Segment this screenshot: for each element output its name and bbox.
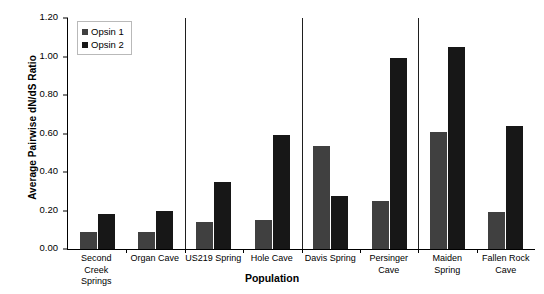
bar-group [243,18,301,249]
bar [506,126,523,249]
legend-item-opsin-1: Opsin 1 [82,25,124,38]
bar [255,220,272,249]
bar-group [360,18,418,249]
bar [331,196,348,249]
bar-group [185,18,243,249]
y-axis-tick-label: 1.20 [40,11,59,22]
bar [273,135,290,249]
bar [488,212,505,249]
bar [390,58,407,249]
bar [196,222,213,249]
bar [80,232,97,249]
bar [98,214,115,249]
x-axis-title: Population [0,272,544,284]
bar [448,47,465,249]
legend-swatch-icon [82,42,88,48]
bar-group [126,18,184,249]
bar-group [418,18,476,249]
chart-figure: Average Pairwise dN/dS Ratio 0.000.200.4… [0,0,544,294]
y-axis-tick-label: 0.40 [40,165,59,176]
bar-groups [68,18,535,249]
y-axis-title: Average Pairwise dN/dS Ratio [27,18,38,238]
legend-label: Opsin 1 [91,26,124,37]
y-axis-tick-label: 0.80 [40,88,59,99]
plot-area: 0.000.200.400.600.801.001.20 Opsin 1 Ops… [67,18,535,250]
bar [138,232,155,249]
y-axis-tick-label: 1.00 [40,49,59,60]
legend-swatch-icon [82,29,88,35]
bar [372,201,389,249]
bar [313,146,330,249]
chart-legend: Opsin 1 Opsin 2 [77,21,132,55]
legend-label: Opsin 2 [91,39,124,50]
y-axis-tick-label: 0.00 [40,242,59,253]
bar-group [302,18,360,249]
legend-item-opsin-2: Opsin 2 [82,38,124,51]
bar [156,211,173,250]
bar-group [477,18,535,249]
bar [430,132,447,249]
y-axis-tick-label: 0.60 [40,126,59,137]
y-axis-tick-label: 0.20 [40,203,59,214]
bar [214,182,231,249]
